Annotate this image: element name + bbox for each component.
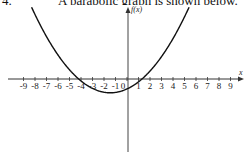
axes bbox=[8, 7, 244, 152]
x-tick-label: -6 bbox=[54, 81, 62, 91]
x-tick-label: 2 bbox=[148, 81, 153, 91]
x-tick-label: -9 bbox=[20, 81, 28, 91]
x-tick-label: -1 bbox=[112, 81, 120, 91]
x-tick-label: 7 bbox=[205, 81, 210, 91]
x-tick-label: -7 bbox=[43, 81, 51, 91]
x-tick-label: 4 bbox=[171, 81, 176, 91]
x-tick-label: -8 bbox=[31, 81, 39, 91]
x-tick-label: 8 bbox=[217, 81, 222, 91]
x-axis-arrow-icon bbox=[238, 77, 244, 82]
x-tick-label: 9 bbox=[228, 81, 233, 91]
x-tick-label: 6 bbox=[194, 81, 199, 91]
x-tick-label: 5 bbox=[182, 81, 187, 91]
x-tick-label: 3 bbox=[159, 81, 164, 91]
y-axis-label: f(x) bbox=[131, 5, 142, 14]
y-axis-arrow-icon bbox=[126, 7, 131, 13]
x-tick-label: -2 bbox=[100, 81, 108, 91]
parabola-chart: -9-8-7-6-5-4-3-2-10123456789 x f(x) bbox=[0, 0, 251, 155]
parabola-curve bbox=[32, 7, 190, 93]
x-axis-label: x bbox=[238, 68, 243, 77]
x-tick-label: -5 bbox=[66, 81, 74, 91]
